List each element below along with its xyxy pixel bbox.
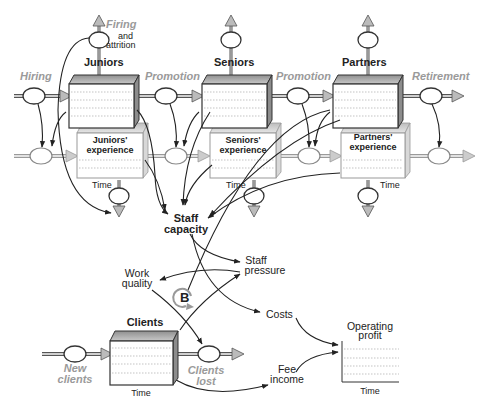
operating-profit-chart [342,341,399,382]
operating-profit-label-2: profit [358,329,381,341]
hiring-label: Hiring [20,70,52,82]
stock-partners [333,75,403,128]
promotion-valve-1-icon [155,88,177,104]
balancing-loop-marker: B [173,289,194,310]
exp-valve-3-icon [298,148,320,164]
seniors-exp-label-2: experience [219,145,266,155]
new-clients-valve-icon [64,346,86,362]
juniors-exp-label-1: Juniors' [93,135,128,145]
firing-label-3: attrition [106,40,136,50]
firing-label: Firing [106,18,137,30]
fee-income-label-2: income [270,373,304,385]
juniors-exp-label-2: experience [86,145,133,155]
firing-valve-seniors-icon [221,32,241,48]
new-clients-label-2: clients [58,373,93,385]
exp-loss-valve-juniors-icon [109,188,129,204]
exp-valve-2-icon [165,148,187,164]
partners-exp-label-1: Partners' [354,132,393,142]
partners-label: Partners [342,56,387,68]
firing-valve-partners-icon [358,32,378,48]
retirement-valve-icon [420,88,442,104]
seniors-label: Seniors [214,56,254,68]
stock-clients [110,331,178,385]
stock-juniors [69,75,139,128]
staff-capacity-label-2: capacity [164,223,209,235]
time-label-seniors: Time [226,180,246,190]
juniors-label: Juniors [84,56,124,68]
promotion-valve-2-icon [287,88,309,104]
clients-lost-label-2: lost [196,375,217,387]
clients-lost-valve-icon [198,346,220,362]
exp-loss-valve-partners-icon [358,188,378,204]
clients-label: Clients [127,316,164,328]
costs-label: Costs [266,308,293,320]
time-label-juniors: Time [92,180,112,190]
stock-flow-diagram: B Firing and attrition Hiring Promotion … [0,0,490,405]
work-quality-label-2: quality [122,277,153,289]
time-label-profit: Time [360,386,380,396]
stock-seniors [202,75,272,128]
hiring-valve-icon [23,88,45,104]
seniors-exp-label-1: Seniors' [225,135,260,145]
exp-valve-1-icon [30,148,52,164]
exp-loss-valve-seniors-icon [244,188,264,204]
retirement-label: Retirement [412,70,471,82]
promotion-label-2: Promotion [276,70,331,82]
promotion-label-1: Promotion [145,70,200,82]
staff-pressure-label-2: pressure [245,264,286,276]
loop-label: B [180,290,189,305]
exp-valve-4-icon [428,148,450,164]
partners-exp-label-2: experience [349,142,396,152]
time-label-clients: Time [131,388,151,398]
time-label-partners: Time [380,180,400,190]
